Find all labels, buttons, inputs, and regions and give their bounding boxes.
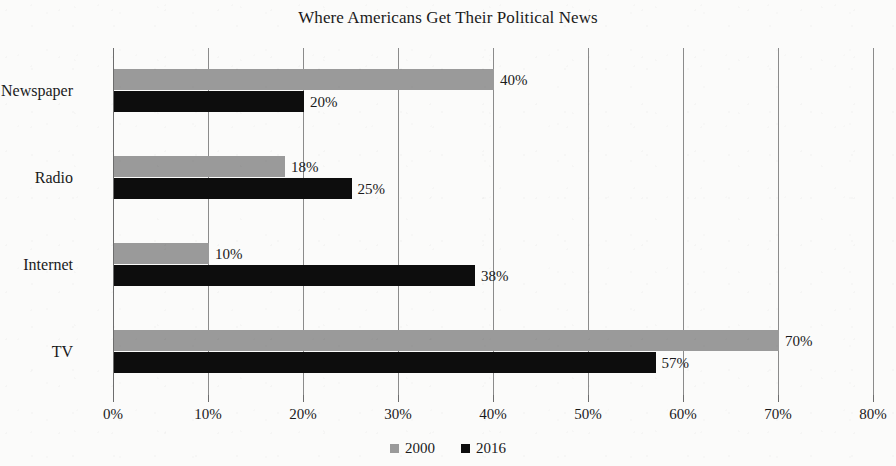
x-tick-label: 60% (643, 406, 723, 423)
legend-entry-2016[interactable]: 2016 (461, 440, 506, 457)
x-tick-mark-40% (493, 395, 494, 402)
bar-value-label-tv-2016: 57% (655, 354, 690, 371)
category-label-tv: TV (0, 343, 73, 361)
bar-value-label-newspaper-2000: 40% (493, 72, 528, 89)
legend-label: 2000 (405, 440, 435, 457)
category-label-radio: Radio (0, 169, 73, 187)
x-tick-mark-80% (873, 395, 874, 402)
x-tick-mark-20% (303, 395, 304, 402)
x-tick-mark-10% (208, 395, 209, 402)
page-cutoff-text (4, 461, 404, 466)
legend-label: 2016 (476, 440, 506, 457)
bar-value-label-internet-2000: 10% (208, 245, 243, 262)
x-tick-label: 70% (738, 406, 818, 423)
x-tick-label: 10% (168, 406, 248, 423)
x-tick-mark-50% (588, 395, 589, 402)
bar-chart-figure: Where Americans Get Their Political News… (0, 0, 896, 466)
x-tick-mark-30% (398, 395, 399, 402)
bar-radio-2000 (114, 156, 285, 177)
chart-legend: 20002016 (0, 440, 896, 457)
bar-value-label-radio-2000: 18% (284, 159, 319, 176)
bar-radio-2016 (114, 178, 352, 199)
bar-value-label-newspaper-2016: 20% (303, 94, 338, 111)
plot-area: 0%10%20%30%40%50%60%70%80%Newspaper40%20… (113, 48, 873, 395)
x-tick-mark-0% (113, 395, 114, 402)
x-tick-label: 20% (263, 406, 343, 423)
bar-value-label-radio-2016: 25% (351, 181, 386, 198)
bar-tv-2000 (114, 330, 779, 351)
legend-swatch-icon-2000 (390, 444, 399, 453)
category-label-internet: Internet (0, 256, 73, 274)
bar-tv-2016 (114, 352, 656, 373)
x-tick-mark-70% (778, 395, 779, 402)
bar-newspaper-2016 (114, 91, 304, 112)
category-label-newspaper: Newspaper (0, 82, 73, 100)
x-tick-label: 0% (73, 406, 153, 423)
x-tick-label: 50% (548, 406, 628, 423)
chart-title: Where Americans Get Their Political News (0, 8, 896, 28)
x-tick-label: 30% (358, 406, 438, 423)
bar-value-label-internet-2016: 38% (474, 267, 509, 284)
bar-internet-2000 (114, 243, 209, 264)
x-tick-label: 40% (453, 406, 533, 423)
x-tick-label: 80% (833, 406, 896, 423)
legend-entry-2000[interactable]: 2000 (390, 440, 435, 457)
bar-newspaper-2000 (114, 69, 494, 90)
x-tick-mark-60% (683, 395, 684, 402)
legend-swatch-icon-2016 (461, 444, 470, 453)
bar-value-label-tv-2000: 70% (778, 332, 813, 349)
bar-internet-2016 (114, 265, 475, 286)
gridline-80% (873, 48, 874, 395)
